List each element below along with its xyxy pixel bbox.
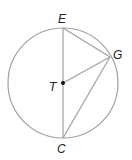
center-point — [61, 81, 65, 85]
label-g: G — [113, 48, 122, 62]
chord-gc — [63, 57, 110, 138]
chord-eg — [63, 28, 110, 57]
label-c: C — [57, 142, 66, 156]
geometry-diagram: E G T C — [0, 0, 132, 160]
label-e: E — [58, 12, 67, 26]
label-t: T — [49, 80, 58, 94]
